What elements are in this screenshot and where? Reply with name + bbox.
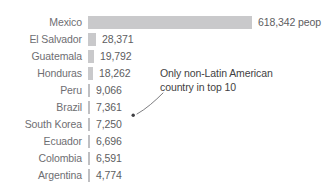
table-row-south-korea: South Korea 7,250 [0,116,324,133]
value-bar [88,16,252,29]
value-label: 9,066 [96,84,122,97]
value-label: 618,342 peop [258,16,321,29]
table-row: Guatemala 19,792 [0,48,324,65]
category-label: Honduras [0,67,82,80]
bar-zone: 618,342 peop [88,16,321,29]
value-label: 7,361 [96,101,122,114]
value-label: 4,774 [96,169,122,182]
category-label: Ecuador [0,135,82,148]
category-label: South Korea [0,118,82,131]
category-label: Mexico [0,16,82,29]
value-label: 19,792 [100,50,132,63]
table-row: Argentina 4,774 [0,167,324,184]
value-bar [88,33,96,46]
table-row: Colombia 6,591 [0,150,324,167]
table-row: Brazil 7,361 [0,99,324,116]
value-label: 6,696 [96,135,122,148]
bar-zone: 7,250 [88,118,122,131]
category-label: Argentina [0,169,82,182]
table-row: Mexico 618,342 peop [0,14,324,31]
value-bar [88,50,94,63]
table-row: Ecuador 6,696 [0,133,324,150]
bar-zone: 4,774 [88,169,122,182]
category-label: Brazil [0,101,82,114]
value-label: 28,371 [102,33,134,46]
annotation-line-1: Only non-Latin American [160,66,320,80]
value-bar [88,118,90,131]
value-bar [88,152,90,165]
value-label: 18,262 [99,67,131,80]
category-label: Guatemala [0,50,82,63]
table-row: El Salvador 28,371 [0,31,324,48]
bar-zone: 28,371 [88,33,134,46]
category-label: Colombia [0,152,82,165]
value-bar [88,67,93,80]
annotation-text: Only non-Latin American country in top 1… [160,66,320,94]
bar-zone: 19,792 [88,50,132,63]
category-label: El Salvador [0,33,82,46]
value-label: 7,250 [96,118,122,131]
bar-zone: 6,696 [88,135,122,148]
horizontal-bar-chart: Mexico 618,342 peop El Salvador 28,371 G… [0,0,324,185]
value-bar [88,84,90,97]
value-label: 6,591 [96,152,122,165]
value-bar [88,169,90,182]
bar-zone: 9,066 [88,84,122,97]
category-label: Peru [0,84,82,97]
annotation-line-2: country in top 10 [160,80,320,94]
value-bar [88,101,90,114]
value-bar [88,135,90,148]
bar-zone: 6,591 [88,152,122,165]
bar-zone: 7,361 [88,101,122,114]
bar-zone: 18,262 [88,67,131,80]
